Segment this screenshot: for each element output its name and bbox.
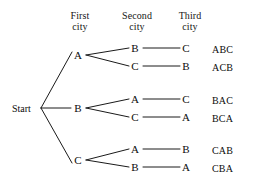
outcome-label-cab: CAB	[212, 145, 233, 156]
level3-node-acb: B	[178, 61, 194, 72]
tree-edge-B-to-A2	[86, 99, 129, 108]
column-header-third-city-line2: city	[160, 21, 220, 32]
tree-edge-C-to-A2	[86, 149, 129, 160]
tree-edge-A-to-B2	[86, 48, 129, 55]
root-node-start: Start	[12, 103, 31, 114]
column-header-third-city: Third city	[160, 10, 220, 32]
column-header-second-city: Second city	[107, 10, 167, 32]
level2-node-a-b: B	[127, 43, 143, 54]
level3-node-bca: A	[178, 112, 194, 123]
level1-node-b: B	[70, 103, 86, 114]
level3-node-bac: C	[178, 94, 194, 105]
outcome-label-abc: ABC	[212, 44, 233, 55]
level1-node-a: A	[70, 50, 86, 61]
level2-node-a-c: C	[127, 61, 143, 72]
tree-diagram-canvas: First city Second city Third city Start …	[0, 0, 253, 187]
outcome-label-bca: BCA	[212, 113, 233, 124]
tree-edge-B-to-C2	[86, 108, 129, 117]
level1-node-c: C	[70, 155, 86, 166]
level2-node-c-a: A	[127, 144, 143, 155]
column-header-first-city-line2: city	[50, 21, 110, 32]
level2-node-c-b: B	[127, 162, 143, 173]
tree-edge-start-to-A	[41, 52, 72, 108]
level3-node-abc: C	[178, 43, 194, 54]
tree-edge-start-to-C	[41, 108, 72, 163]
outcome-label-acb: ACB	[212, 62, 233, 73]
level3-node-cba: A	[178, 162, 194, 173]
level2-node-b-c: C	[127, 112, 143, 123]
outcome-label-bac: BAC	[212, 95, 233, 106]
level3-node-cab: B	[178, 144, 194, 155]
column-header-second-city-line2: city	[107, 21, 167, 32]
tree-edge-C-to-B2	[86, 160, 129, 167]
outcome-label-cba: CBA	[212, 163, 233, 174]
column-header-first-city-line1: First	[71, 10, 90, 21]
column-header-second-city-line1: Second	[122, 10, 152, 21]
column-header-third-city-line1: Third	[179, 10, 202, 21]
level2-node-b-a: A	[127, 94, 143, 105]
column-header-first-city: First city	[50, 10, 110, 32]
tree-edge-A-to-C2	[86, 55, 129, 66]
